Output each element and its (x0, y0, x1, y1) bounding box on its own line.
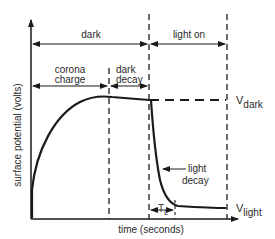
light-decay-label-1: light (188, 163, 207, 174)
photoconductor-potential-diagram: dark light on corona charge dark decay s… (0, 0, 275, 239)
v-light-label: Vlight (236, 202, 262, 218)
x-axis-label: time (seconds) (118, 224, 184, 235)
dark-phase-label: dark (81, 29, 101, 40)
y-axis-label: surface potential (volts) (12, 83, 23, 186)
v-dark-label: Vdark (236, 94, 264, 110)
tl-label: TL (158, 203, 169, 217)
potential-curve (32, 97, 226, 218)
light-on-phase-label: light on (173, 29, 205, 40)
light-decay-label-2: decay (182, 175, 209, 186)
v-dark-sub: dark (243, 99, 263, 110)
v-light-sub: light (243, 207, 262, 218)
tl-sub: L (164, 208, 169, 217)
corona-charge-label-2: charge (55, 74, 86, 85)
dark-decay-label-2: decay (116, 74, 143, 85)
